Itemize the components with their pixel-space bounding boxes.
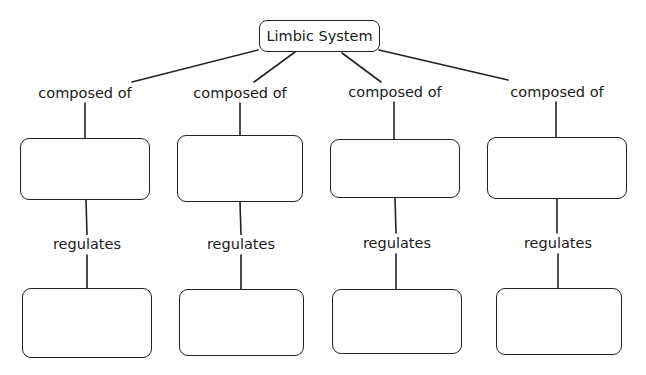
component-box-2[interactable] [177,135,303,202]
component-box-4[interactable] [487,137,627,199]
link-label-regulates-3: regulates [362,234,432,252]
function-box-4[interactable] [496,288,622,355]
connector-root-to-branch-4 [379,50,508,80]
function-box-1[interactable] [22,288,152,358]
connector-component-to-regulates-3 [395,198,396,233]
connector-root-to-branch-2 [254,52,295,82]
link-label-composed-of-2: composed of [192,84,287,102]
link-label-composed-of-3: composed of [347,83,442,101]
root-node-limbic-system: Limbic System [259,20,380,52]
connector-root-to-branch-1 [132,50,258,82]
component-box-1[interactable] [20,138,150,200]
function-box-3[interactable] [332,289,462,354]
component-box-3[interactable] [330,139,460,198]
connector-component-to-regulates-1 [86,200,87,235]
connector-root-to-branch-3 [342,53,381,82]
link-label-regulates-1: regulates [52,235,122,253]
root-node-label: Limbic System [266,28,372,44]
link-label-composed-of-4: composed of [509,83,604,101]
link-label-regulates-2: regulates [206,235,276,253]
link-label-regulates-4: regulates [523,234,593,252]
connector-component-to-regulates-2 [240,202,241,235]
link-label-composed-of-1: composed of [37,84,132,102]
function-box-2[interactable] [179,289,304,356]
concept-map-canvas: Limbic System composed of composed of co… [0,0,646,375]
